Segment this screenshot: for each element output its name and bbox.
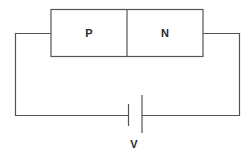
p-region-label: P — [85, 27, 92, 39]
battery-voltage-label: V — [130, 138, 137, 150]
pn-junction-diagram: P N V — [0, 0, 252, 156]
circuit-drawing — [0, 0, 252, 156]
left-wire — [16, 34, 129, 116]
right-wire — [142, 34, 240, 116]
n-region-label: N — [161, 27, 169, 39]
